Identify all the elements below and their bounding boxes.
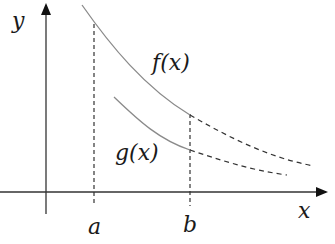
function-comparison-diagram: y x f(x) g(x) a b (0, 0, 335, 244)
marker-a-label: a (88, 214, 101, 239)
curve-g-dashed (190, 150, 287, 175)
curve-f-dashed (190, 115, 314, 166)
x-axis-label: x (298, 198, 311, 223)
curve-g-label: g(x) (115, 140, 159, 165)
marker-b-label: b (183, 212, 197, 237)
y-axis-label: y (11, 8, 25, 33)
curve-f-label: f(x) (150, 50, 190, 75)
